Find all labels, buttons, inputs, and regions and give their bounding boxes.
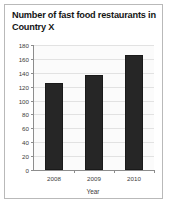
y-tick-mark xyxy=(31,156,34,157)
gridline xyxy=(34,45,154,46)
y-tick-label: 160 xyxy=(19,55,29,62)
y-tick-label: 120 xyxy=(19,83,29,90)
y-tick-label: 60 xyxy=(22,125,29,132)
y-tick-mark xyxy=(31,114,34,115)
y-tick-mark xyxy=(31,59,34,60)
y-tick-mark xyxy=(31,170,34,171)
x-tick-label: 2009 xyxy=(87,175,101,182)
y-tick-label: 20 xyxy=(22,153,29,160)
y-tick-mark xyxy=(31,142,34,143)
bar xyxy=(85,75,103,170)
chart-title-line-1: Number of fast food restaurants xyxy=(12,10,146,20)
x-tick-mark xyxy=(114,170,115,173)
plot-wrapper: 020406080100120140160180 200820092010 Ye… xyxy=(5,41,162,198)
x-tick-label: 2008 xyxy=(47,175,61,182)
y-tick-label: 80 xyxy=(22,111,29,118)
chart-title: Number of fast food restaurants in Count… xyxy=(12,10,158,33)
bar xyxy=(125,55,143,170)
y-tick-label: 140 xyxy=(19,69,29,76)
plot-area: 020406080100120140160180 200820092010 xyxy=(33,45,154,171)
y-tick-label: 40 xyxy=(22,139,29,146)
bar xyxy=(45,83,63,170)
y-tick-mark xyxy=(31,87,34,88)
x-tick-label: 2010 xyxy=(127,175,141,182)
x-tick-mark xyxy=(74,170,75,173)
y-tick-label: 100 xyxy=(19,97,29,104)
y-tick-mark xyxy=(31,101,34,102)
y-tick-label: 0 xyxy=(26,167,29,174)
y-tick-label: 180 xyxy=(19,42,29,49)
chart-figure: Number of fast food restaurants in Count… xyxy=(4,4,163,199)
y-tick-mark xyxy=(31,73,34,74)
y-tick-mark xyxy=(31,128,34,129)
x-tick-mark xyxy=(154,170,155,173)
x-axis-title: Year xyxy=(33,188,153,195)
y-tick-mark xyxy=(31,45,34,46)
